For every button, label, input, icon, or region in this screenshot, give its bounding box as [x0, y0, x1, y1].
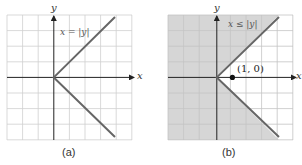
equation-label-a: x = |y|: [60, 27, 90, 37]
y-axis-label-a: y: [51, 2, 57, 13]
point-1-0: [230, 75, 235, 80]
x-axis-label-a: x: [137, 70, 143, 81]
x-axis-label-b: x: [296, 70, 302, 81]
caption-a: (a): [62, 146, 75, 158]
equation-label-b: x ≤ |y|: [228, 19, 258, 29]
point-label: (1, 0): [237, 63, 264, 74]
caption-b: (b): [222, 146, 235, 158]
panel-b: [168, 15, 296, 140]
y-axis-label-b: y: [214, 2, 220, 13]
